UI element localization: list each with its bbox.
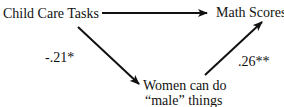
arrow-predictor-to-mediator [78, 27, 139, 84]
coefficient-b-path: .26** [238, 54, 270, 69]
mediator-line-2: “male” things [143, 93, 227, 107]
mediator-line-1: Women can do [143, 78, 227, 93]
node-mediator: Women can do “male” things [143, 78, 227, 107]
node-math-scores: Math Scores [216, 5, 284, 20]
coefficient-a-path: -.21* [45, 50, 74, 65]
mediation-diagram: .xx Child Care Tasks Math Scores Women c… [0, 0, 284, 107]
coefficient-direct-path: .xx [120, 0, 138, 3]
node-child-care-tasks: Child Care Tasks [3, 6, 99, 21]
